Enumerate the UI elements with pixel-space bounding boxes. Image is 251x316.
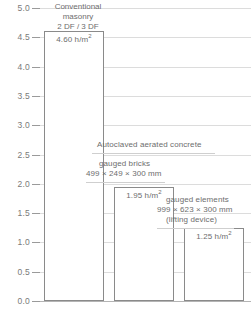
annotation-conventional-masonry: Conventional masonry 2 DF / 3 DF bbox=[33, 2, 123, 32]
bar: 1.95 h/m2 bbox=[114, 187, 174, 301]
plot-area: 0.00.51.01.52.02.53.03.54.04.55.0 4.60 h… bbox=[40, 8, 251, 301]
annotation-gauged-bricks-line-1: gauged bricks bbox=[99, 159, 150, 169]
gauged-elements-rule bbox=[157, 228, 234, 229]
y-axis-label: 3.5 bbox=[18, 91, 30, 101]
y-axis-label: 5.0 bbox=[18, 3, 30, 13]
y-axis-tick bbox=[32, 125, 40, 126]
y-axis-tick bbox=[32, 67, 40, 68]
bar-value-label: 1.25 h/m2 bbox=[185, 232, 243, 241]
y-axis-label: 1.0 bbox=[18, 237, 30, 247]
bar-value-superscript: 2 bbox=[88, 34, 91, 40]
annotation-gauged-elements-line-3: (lifting device) bbox=[166, 215, 217, 225]
y-axis-label: 2.0 bbox=[18, 179, 30, 189]
bar-value-label: 1.95 h/m2 bbox=[115, 191, 173, 200]
y-axis-label: 0.5 bbox=[18, 267, 30, 277]
conventional-line-2: masonry bbox=[33, 12, 123, 22]
y-axis-label: 1.5 bbox=[18, 208, 30, 218]
bar-chart: 0.00.51.01.52.02.53.03.54.04.55.0 4.60 h… bbox=[0, 0, 251, 316]
y-axis-label: 4.5 bbox=[18, 32, 30, 42]
y-axis-tick bbox=[32, 213, 40, 214]
y-axis-label: 2.5 bbox=[18, 150, 30, 160]
y-axis-tick bbox=[32, 272, 40, 273]
conventional-line-1: Conventional bbox=[33, 2, 123, 12]
y-axis-tick bbox=[32, 301, 40, 302]
bar: 1.25 h/m2 bbox=[184, 228, 244, 301]
y-axis-tick bbox=[32, 96, 40, 97]
conventional-line-3: 2 DF / 3 DF bbox=[33, 22, 123, 32]
y-axis-tick bbox=[32, 37, 40, 38]
aac-heading-rule bbox=[92, 153, 215, 154]
y-axis-tick bbox=[32, 184, 40, 185]
bar-value-superscript: 2 bbox=[158, 189, 161, 195]
y-axis-label: 0.0 bbox=[18, 296, 30, 306]
bar-value-label: 4.60 h/m2 bbox=[45, 35, 103, 44]
y-axis-label: 3.0 bbox=[18, 120, 30, 130]
y-axis-label: 4.0 bbox=[18, 62, 30, 72]
gridline bbox=[40, 301, 251, 302]
annotation-gauged-bricks-line-2: 499 × 249 × 300 mm bbox=[86, 169, 162, 179]
annotation-gauged-elements-line-1: gauged elements bbox=[166, 195, 229, 205]
annotation-aac-heading: Autoclaved aerated concrete bbox=[97, 140, 202, 150]
y-axis-tick bbox=[32, 242, 40, 243]
y-axis-tick bbox=[32, 155, 40, 156]
bar-value-superscript: 2 bbox=[228, 230, 231, 236]
annotation-gauged-elements-line-2: 999 × 623 × 300 mm bbox=[157, 205, 233, 215]
gauged-bricks-rule bbox=[86, 182, 165, 183]
bar: 4.60 h/m2 bbox=[44, 31, 104, 301]
